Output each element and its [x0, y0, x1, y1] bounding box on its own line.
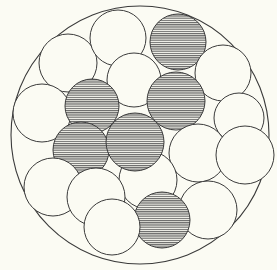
- inner-circles-group: [13, 10, 274, 255]
- circle-packing-diagram: [0, 0, 277, 270]
- hatched-circle: [134, 192, 190, 248]
- diagram-canvas: [0, 0, 277, 270]
- plain-circle: [216, 126, 274, 184]
- hatched-circle: [106, 113, 164, 171]
- plain-circle: [84, 199, 140, 255]
